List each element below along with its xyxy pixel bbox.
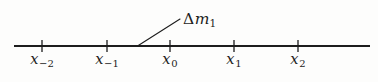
tick-label-x2: x2 <box>290 52 305 69</box>
variable-m: m <box>194 10 209 28</box>
tick-label-subscript: −1 <box>104 58 119 69</box>
tick-label-x0: x0 <box>162 52 177 69</box>
subscript-1: 1 <box>209 17 216 29</box>
tick-label-xm2: x−2 <box>30 52 54 69</box>
delta-m1-leader-line <box>138 19 181 46</box>
tick-label-subscript: −2 <box>39 58 54 69</box>
delta-m1-label: Δm1 <box>183 12 216 29</box>
tick-label-subscript: 2 <box>299 58 306 69</box>
tick-label-xm1: x−1 <box>95 52 119 69</box>
tick-label-x1: x1 <box>226 52 241 69</box>
tick-label-subscript: 1 <box>235 58 242 69</box>
number-line-figure: Δm1 x−2 x−1 x0 x1 x2 <box>0 0 378 82</box>
delta-symbol: Δ <box>183 10 194 28</box>
tick-label-subscript: 0 <box>171 58 178 69</box>
